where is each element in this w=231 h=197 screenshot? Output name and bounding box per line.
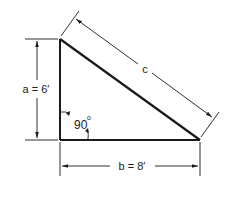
label-side-c: c: [142, 63, 148, 75]
degree-symbol: o: [87, 114, 91, 121]
angle-arrow-upper: [66, 111, 70, 116]
label-side-a: a = 6′: [23, 83, 50, 95]
dimension-line-c-lower: [152, 73, 212, 117]
right-angle-annotation: 90 o: [61, 111, 91, 139]
triangle-diagram: a = 6′ b = 8′ c 90 o: [0, 0, 231, 197]
label-right-angle: 90: [74, 118, 88, 132]
label-side-b: b = 8′: [119, 160, 146, 172]
dimension-b: b = 8′: [60, 142, 200, 176]
dimension-a: a = 6′: [16, 39, 58, 140]
extension-line-c-top: [61, 11, 79, 36]
